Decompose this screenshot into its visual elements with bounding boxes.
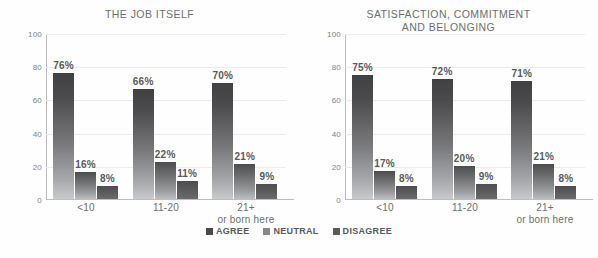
bar-disagree[interactable]: 11% <box>177 181 198 199</box>
bar-value-label: 11% <box>177 168 197 179</box>
bar-slot: 71% <box>511 34 532 199</box>
bar-groups: 76%16%8%66%22%11%70%21%9% <box>47 34 286 199</box>
bar-slot: 8% <box>555 34 576 199</box>
y-axis-tick-label: 80 <box>321 63 341 72</box>
y-axis: 020406080100 <box>22 34 42 200</box>
bar-agree[interactable]: 72% <box>432 79 453 199</box>
x-axis-category-label: <10 <box>46 202 126 226</box>
bar-disagree[interactable]: 9% <box>476 184 497 199</box>
bar-agree[interactable]: 66% <box>133 89 154 199</box>
legend-swatch-icon <box>263 228 270 235</box>
x-axis-category-label: 11-20 <box>126 202 206 226</box>
bar-disagree[interactable]: 8% <box>396 186 417 199</box>
legend-item-agree[interactable]: AGREE <box>206 226 250 236</box>
bar-value-label: 71% <box>512 68 533 79</box>
x-axis-line <box>46 199 294 200</box>
bar-agree[interactable]: 71% <box>511 81 532 199</box>
x-axis-category-label: <10 <box>345 202 425 226</box>
bar-disagree[interactable]: 8% <box>97 186 118 199</box>
x-axis-category-label: 21+ or born here <box>206 202 286 226</box>
y-axis-tick-label: 40 <box>22 129 42 138</box>
bar-group: 71%21%8% <box>505 34 585 199</box>
bar-value-label: 17% <box>374 158 395 169</box>
bar-value-label: 22% <box>155 149 176 160</box>
bar-value-label: 76% <box>53 60 74 71</box>
bar-slot: 21% <box>533 34 554 199</box>
bar-value-label: 8% <box>558 173 573 184</box>
bar-value-label: 20% <box>454 153 475 164</box>
y-axis-tick-label: 0 <box>321 196 341 205</box>
bar-disagree[interactable]: 8% <box>555 186 576 199</box>
bar-value-label: 16% <box>75 159 96 170</box>
bar-agree[interactable]: 70% <box>212 83 233 199</box>
bar-slot: 22% <box>155 34 176 199</box>
bar-slot: 20% <box>454 34 475 199</box>
legend-label: AGREE <box>216 226 250 236</box>
bar-groups: 75%17%8%72%20%9%71%21%8% <box>346 34 585 199</box>
chart-panel-the-job-itself: THE JOB ITSELF 020406080100 76%16%8%66%2… <box>0 0 299 220</box>
bar-agree[interactable]: 76% <box>53 73 74 199</box>
bar-value-label: 21% <box>534 151 555 162</box>
bar-disagree[interactable]: 9% <box>256 184 277 199</box>
chart-title: SATISFACTION, COMMITMENT AND BELONGING <box>299 8 598 33</box>
y-axis: 020406080100 <box>321 34 341 200</box>
x-axis-labels: <1011-2021+ or born here <box>46 202 286 226</box>
bar-neutral[interactable]: 20% <box>454 166 475 199</box>
bar-slot: 66% <box>133 34 154 199</box>
bar-slot: 21% <box>234 34 255 199</box>
bar-value-label: 75% <box>352 62 373 73</box>
bar-neutral[interactable]: 17% <box>374 171 395 199</box>
legend-item-neutral[interactable]: NEUTRAL <box>263 226 318 236</box>
bar-slot: 17% <box>374 34 395 199</box>
legend-swatch-icon <box>206 228 213 235</box>
bar-slot: 76% <box>53 34 74 199</box>
bar-group: 75%17%8% <box>346 34 426 199</box>
y-axis-tick-label: 0 <box>22 196 42 205</box>
bar-slot: 9% <box>476 34 497 199</box>
legend-label: DISAGREE <box>343 226 392 236</box>
bar-slot: 11% <box>177 34 198 199</box>
bar-group: 72%20%9% <box>426 34 506 199</box>
bar-group: 76%16%8% <box>47 34 127 199</box>
bar-value-label: 8% <box>100 173 115 184</box>
legend-item-disagree[interactable]: DISAGREE <box>333 226 392 236</box>
bar-value-label: 9% <box>479 171 494 182</box>
bar-agree[interactable]: 75% <box>352 75 373 200</box>
x-axis-category-label: 21+ or born here <box>505 202 585 226</box>
bar-value-label: 8% <box>399 173 414 184</box>
y-axis-tick-label: 100 <box>22 30 42 39</box>
chart-title: THE JOB ITSELF <box>0 8 299 21</box>
x-axis-labels: <1011-2021+ or born here <box>345 202 585 226</box>
bar-slot: 72% <box>432 34 453 199</box>
legend-label: NEUTRAL <box>273 226 318 236</box>
x-axis-category-label: 11-20 <box>425 202 505 226</box>
bar-slot: 75% <box>352 34 373 199</box>
bar-slot: 9% <box>256 34 277 199</box>
bar-neutral[interactable]: 21% <box>533 164 554 199</box>
bar-neutral[interactable]: 16% <box>75 172 96 199</box>
bar-value-label: 72% <box>432 66 453 77</box>
chart-panel-satisfaction-commitment-and-belonging: SATISFACTION, COMMITMENT AND BELONGING 0… <box>299 0 598 220</box>
y-axis-tick-label: 20 <box>22 162 42 171</box>
bar-value-label: 66% <box>133 76 154 87</box>
legend: AGREENEUTRALDISAGREE <box>0 226 598 236</box>
bar-slot: 8% <box>97 34 118 199</box>
bar-neutral[interactable]: 21% <box>234 164 255 199</box>
chart-figure: THE JOB ITSELF 020406080100 76%16%8%66%2… <box>0 0 598 258</box>
y-axis-tick-label: 20 <box>321 162 341 171</box>
bar-value-label: 9% <box>259 171 274 182</box>
y-axis-tick-label: 60 <box>321 96 341 105</box>
bar-slot: 70% <box>212 34 233 199</box>
plot-area: 020406080100 76%16%8%66%22%11%70%21%9% <box>46 34 286 200</box>
y-axis-tick-label: 100 <box>321 30 341 39</box>
bar-value-label: 70% <box>213 70 234 81</box>
charts-row: THE JOB ITSELF 020406080100 76%16%8%66%2… <box>0 0 598 220</box>
bar-value-label: 21% <box>235 151 256 162</box>
y-axis-tick-label: 60 <box>22 96 42 105</box>
bar-slot: 16% <box>75 34 96 199</box>
y-axis-tick-label: 80 <box>22 63 42 72</box>
bar-neutral[interactable]: 22% <box>155 162 176 199</box>
y-axis-tick-label: 40 <box>321 129 341 138</box>
bar-group: 66%22%11% <box>127 34 207 199</box>
bar-slot: 8% <box>396 34 417 199</box>
